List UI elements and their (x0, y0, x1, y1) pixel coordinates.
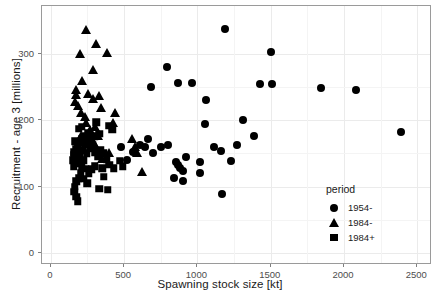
x-tick-label: 1500 (259, 269, 280, 280)
legend-entry-label: 1984- (348, 217, 372, 228)
data-point-triangle (88, 65, 98, 74)
gridline-horizontal-minor (42, 87, 430, 88)
x-tick-mark (50, 264, 51, 267)
data-point-triangle (96, 103, 106, 112)
gridline-horizontal (42, 253, 430, 254)
x-tick-mark (196, 264, 197, 267)
data-point-circle (218, 190, 226, 198)
x-tick-label: 1000 (186, 269, 207, 280)
legend-entry-label: 1954- (348, 202, 372, 213)
data-point-square (95, 185, 103, 193)
data-point-circle (268, 80, 276, 88)
x-tick-mark (343, 264, 344, 267)
data-point-triangle (132, 148, 142, 157)
data-point-square (90, 132, 98, 140)
data-point-triangle (91, 39, 101, 48)
legend-entry-label: 1984+ (348, 232, 375, 243)
data-point-circle (201, 120, 209, 128)
data-point-circle (352, 86, 360, 94)
data-point-triangle (94, 91, 104, 100)
data-point-square (98, 164, 106, 172)
data-point-square (104, 186, 112, 194)
data-point-square (110, 164, 118, 172)
gridline-vertical-minor (307, 6, 308, 263)
data-point-circle (196, 169, 204, 177)
data-point-circle (163, 63, 171, 71)
y-tick-label: 0 (4, 247, 34, 258)
data-point-circle (182, 153, 190, 161)
gridline-vertical (51, 6, 52, 263)
gridline-vertical (417, 6, 418, 263)
data-point-circle (117, 143, 125, 151)
data-point-square (109, 126, 117, 134)
data-point-triangle (75, 49, 85, 58)
data-point-circle (174, 79, 182, 87)
data-point-square (76, 153, 84, 161)
data-point-circle (256, 80, 264, 88)
legend-title: period (326, 183, 388, 195)
data-point-circle (317, 84, 325, 92)
data-point-square (71, 138, 79, 146)
y-tick-label: 200 (4, 114, 34, 125)
data-point-circle (217, 147, 225, 155)
data-point-circle (239, 116, 247, 124)
legend: period 1954-1984-1984+ (326, 183, 388, 245)
legend-entry-1954[interactable]: 1954- (326, 200, 388, 215)
data-point-triangle (81, 25, 91, 34)
data-point-circle (267, 48, 275, 56)
data-point-circle (164, 141, 172, 149)
data-point-square (74, 197, 82, 205)
x-tick-label: 2000 (332, 269, 353, 280)
gridline-vertical (271, 6, 272, 263)
gridline-vertical-minor (161, 6, 162, 263)
legend-entry-1984[interactable]: 1984+ (326, 230, 388, 245)
scatter-chart-figure: Recruitment - age 3 [millions] Spawning … (0, 0, 440, 297)
y-axis-title: Recruitment - age 3 [millions] (10, 0, 22, 269)
data-point-square (100, 173, 108, 181)
data-point-circle (149, 149, 157, 157)
x-tick-mark (123, 264, 124, 267)
data-point-circle (233, 141, 241, 149)
data-point-triangle (102, 48, 112, 57)
data-point-circle (397, 128, 405, 136)
circle-marker-icon (326, 204, 342, 212)
gridline-horizontal (42, 54, 430, 55)
x-tick-label: 2500 (406, 269, 427, 280)
data-point-square (84, 180, 92, 188)
x-tick-label: 0 (47, 269, 52, 280)
y-tick-label: 100 (4, 180, 34, 191)
data-point-square (119, 162, 127, 170)
data-point-square (92, 118, 100, 126)
data-point-circle (221, 25, 229, 33)
data-point-circle (172, 158, 180, 166)
y-tick-label: 300 (4, 47, 34, 58)
data-point-square (78, 123, 86, 131)
data-point-circle (202, 96, 210, 104)
gridline-vertical (124, 6, 125, 263)
data-point-triangle (76, 108, 86, 117)
data-point-circle (147, 83, 155, 91)
data-point-circle (196, 158, 204, 166)
data-point-circle (157, 143, 165, 151)
x-axis-title: Spawning stock size [kt] (0, 278, 440, 290)
data-point-circle (144, 135, 152, 143)
x-tick-label: 500 (115, 269, 131, 280)
data-point-circle (188, 79, 196, 87)
data-point-circle (250, 132, 258, 140)
gridline-vertical-minor (234, 6, 235, 263)
legend-entries: 1954-1984-1984+ (326, 200, 388, 245)
x-tick-mark (270, 264, 271, 267)
square-marker-icon (326, 234, 342, 242)
triangle-marker-icon (326, 218, 342, 227)
gridline-vertical (197, 6, 198, 263)
x-tick-mark (416, 264, 417, 267)
data-point-square (70, 163, 78, 171)
data-point-circle (170, 174, 178, 182)
gridline-horizontal (42, 120, 430, 121)
data-point-circle (227, 157, 235, 165)
data-point-circle (179, 177, 187, 185)
legend-entry-1984[interactable]: 1984- (326, 215, 388, 230)
data-point-triangle (110, 108, 120, 117)
data-point-triangle (137, 167, 147, 176)
